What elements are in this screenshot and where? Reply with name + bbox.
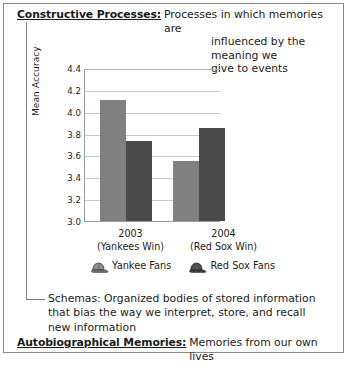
legend-label: Yankee Fans bbox=[112, 260, 171, 271]
bar-red-sox-fans-2003 bbox=[126, 141, 152, 221]
y-tick: 4.4 bbox=[67, 65, 81, 74]
x-axis-category: 2004 bbox=[177, 227, 270, 240]
definition-line: influenced by the meaning we bbox=[211, 35, 335, 62]
definition-text-autobiographical-memories: Memories from our own lives bbox=[189, 336, 335, 363]
term-label-schemas: Schemas: bbox=[48, 292, 101, 305]
plot-area bbox=[84, 69, 220, 222]
bar-red-sox-fans-2004 bbox=[199, 128, 225, 221]
y-tick: 4.0 bbox=[67, 109, 81, 118]
y-tick: 4.2 bbox=[67, 87, 81, 96]
x-axis-sublabel: (Red Sox Win) bbox=[177, 240, 270, 253]
legend-item-yankee-fans: Yankee Fans bbox=[90, 259, 171, 271]
definition-text-schemas: that bias the way we interpret, store, a… bbox=[48, 306, 305, 319]
y-axis-ticks: 4.4 4.2 4.0 3.8 3.6 3.4 3.2 3.0 bbox=[60, 64, 84, 222]
definition-schemas: Schemas: Organized bodies of stored info… bbox=[48, 292, 331, 335]
definition-text-schemas: Organized bodies of stored information bbox=[104, 292, 315, 305]
y-tick: 3.4 bbox=[67, 174, 81, 183]
y-tick: 3.0 bbox=[67, 218, 81, 227]
plot-wrapper: 4.4 4.2 4.0 3.8 3.6 3.4 3.2 3.0 bbox=[60, 64, 220, 222]
bar-chart: Mean Accuracy 4.4 4.2 4.0 3.8 3.6 3.4 3.… bbox=[34, 64, 264, 279]
x-axis-category: 2003 bbox=[84, 227, 177, 240]
baseball-cap-icon bbox=[90, 259, 109, 271]
y-tick: 3.8 bbox=[67, 131, 81, 140]
term-label-constructive-processes: Constructive Processes: bbox=[17, 8, 161, 22]
bar-yankee-fans-2003 bbox=[100, 100, 126, 221]
term-label-autobiographical-memories: Autobiographical Memories: bbox=[17, 336, 186, 363]
x-axis-sublabel: (Yankees Win) bbox=[84, 240, 177, 253]
y-axis-label: Mean Accuracy bbox=[31, 46, 41, 116]
bar-group-container bbox=[85, 69, 220, 221]
x-axis-group-2003: 2003 (Yankees Win) bbox=[84, 227, 177, 253]
y-tick: 3.6 bbox=[67, 152, 81, 161]
definition-line: Processes in which memories are bbox=[164, 8, 335, 35]
figure-page: Constructive Processes: Processes in whi… bbox=[0, 0, 349, 370]
connector-horizontal-line bbox=[26, 299, 45, 300]
bar-yankee-fans-2004 bbox=[173, 161, 199, 221]
y-tick: 3.2 bbox=[67, 196, 81, 205]
x-axis-labels: 2003 (Yankees Win) 2004 (Red Sox Win) bbox=[84, 227, 270, 253]
x-axis-group-2004: 2004 (Red Sox Win) bbox=[177, 227, 270, 253]
definition-autobiographical-memories: Autobiographical Memories: Memories from… bbox=[17, 336, 335, 363]
legend-item-red-sox-fans: Red Sox Fans bbox=[188, 259, 275, 271]
baseball-cap-icon bbox=[188, 259, 207, 271]
definition-text-schemas: new information bbox=[48, 321, 136, 334]
chart-legend: Yankee Fans Red Sox Fans bbox=[90, 259, 280, 271]
legend-label: Red Sox Fans bbox=[210, 260, 275, 271]
